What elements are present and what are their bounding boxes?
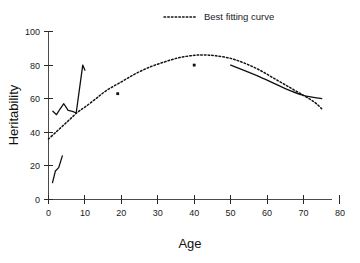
x-axis-title: Age (178, 236, 201, 251)
series-best-fitting-curve (49, 55, 322, 139)
x-axis-ticks: 0 10 20 30 40 50 60 70 80 (46, 195, 345, 218)
series-older-adults (231, 65, 322, 99)
x-tick-label-70: 70 (298, 208, 308, 218)
y-tick-label-20: 20 (30, 161, 40, 171)
series-young-children-zigzag (53, 65, 85, 115)
chart-legend: Best fitting curve (164, 11, 274, 22)
y-tick-label-0: 0 (35, 195, 40, 205)
chart-data-layer (49, 55, 322, 183)
x-tick-label-40: 40 (189, 208, 199, 218)
x-tick-label-0: 0 (46, 208, 51, 218)
y-tick-label-40: 40 (30, 128, 40, 138)
series-low-early-childhood (53, 156, 63, 183)
data-point-1 (193, 64, 196, 67)
legend-label-best-fitting-curve: Best fitting curve (204, 11, 274, 22)
x-tick-label-60: 60 (262, 208, 272, 218)
series-individual-study-estimates (116, 64, 195, 95)
y-tick-label-80: 80 (30, 61, 40, 71)
y-tick-label-100: 100 (25, 27, 40, 37)
y-tick-label-60: 60 (30, 94, 40, 104)
x-tick-label-20: 20 (116, 208, 126, 218)
y-axis-title: Heritability (6, 84, 21, 145)
data-point-0 (116, 92, 119, 95)
x-tick-label-30: 30 (153, 208, 163, 218)
x-tick-label-10: 10 (80, 208, 90, 218)
x-tick-label-80: 80 (335, 208, 345, 218)
heritability-by-age-chart: Best fitting curve 0 20 40 60 80 100 0 (0, 0, 360, 263)
x-tick-label-50: 50 (226, 208, 236, 218)
chart-figure: Best fitting curve 0 20 40 60 80 100 0 (0, 0, 360, 263)
